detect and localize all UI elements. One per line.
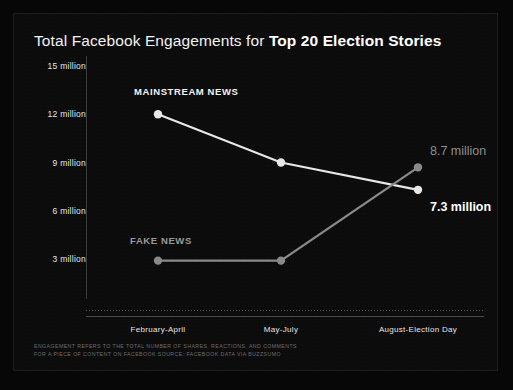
value-label-fake-news: 8.7 million (430, 144, 486, 158)
series-lines (14, 14, 497, 370)
footnote-line-1: ENGAGEMENT REFERS TO THE TOTAL NUMBER OF… (34, 342, 297, 350)
series-label-fake-news: FAKE NEWS (130, 235, 192, 246)
series-label-mainstream-news: MAINSTREAM NEWS (134, 86, 239, 97)
value-label-mainstream-news: 7.3 million (430, 200, 491, 214)
footnote-line-2: FOR A PIECE OF CONTENT ON FACEBOOK SOURC… (34, 350, 297, 358)
series-polyline (158, 114, 418, 190)
series-data-point (414, 186, 422, 194)
series-data-point (277, 256, 285, 264)
series-data-point (277, 158, 285, 166)
series-data-point (414, 163, 422, 171)
screenshot-stage: Total Facebook Engagements for Top 20 El… (0, 0, 513, 390)
chart-footnote: ENGAGEMENT REFERS TO THE TOTAL NUMBER OF… (34, 342, 297, 358)
series-data-point (154, 256, 162, 264)
series-data-point (154, 110, 162, 118)
chart-panel: Total Facebook Engagements for Top 20 El… (14, 14, 497, 370)
plot-area: 15 million12 million9 million6 million3 … (14, 14, 497, 370)
